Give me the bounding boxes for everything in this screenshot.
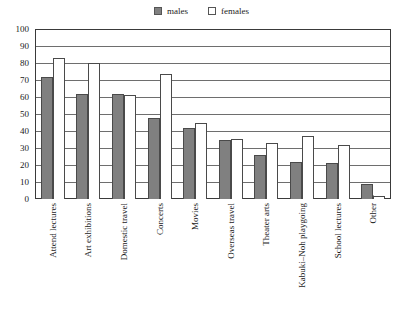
bar-group — [284, 29, 320, 199]
x-label-cell: School lectures — [320, 201, 356, 313]
bar-males — [183, 128, 195, 199]
bar-males — [219, 140, 231, 200]
y-tick-label: 80 — [20, 59, 29, 68]
x-axis-category-label: Concerts — [155, 203, 164, 235]
legend-label-females: females — [221, 7, 249, 16]
x-axis-category-label: Theater arts — [262, 203, 271, 246]
bar-group — [249, 29, 285, 199]
x-axis-category-label: Movies — [191, 203, 200, 230]
x-axis-category-label: School lectures — [333, 203, 342, 258]
bar-chart: males females 0102030405060708090100 Att… — [0, 0, 403, 315]
bars-layer — [35, 29, 391, 199]
x-tick-mark — [337, 195, 338, 199]
bar-females — [373, 196, 385, 199]
x-axis-category-label: Kabuki–Noh playgoing — [297, 203, 306, 288]
y-axis: 0102030405060708090100 — [0, 29, 33, 199]
bar-group — [177, 29, 213, 199]
bar-group — [71, 29, 107, 199]
bar-group — [355, 29, 391, 199]
y-tick-label: 60 — [20, 93, 29, 102]
legend-swatch-females-icon — [208, 7, 216, 15]
bar-females — [124, 95, 136, 199]
x-axis-category-label: Other — [369, 203, 378, 224]
x-label-cell: Attend lectures — [35, 201, 71, 313]
bar-females — [53, 58, 65, 199]
chart-legend: males females — [0, 3, 403, 19]
bar-group — [106, 29, 142, 199]
x-label-cell: Movies — [177, 201, 213, 313]
bar-males — [148, 118, 160, 199]
x-tick-mark — [301, 195, 302, 199]
x-label-cell: Overseas travel — [213, 201, 249, 313]
bar-males — [254, 155, 266, 199]
y-tick-label: 100 — [16, 25, 30, 34]
bar-females — [266, 143, 278, 199]
x-label-cell: Theater arts — [249, 201, 285, 313]
x-axis-category-label: Art exhibitions — [84, 203, 93, 257]
legend-entry-females: females — [208, 7, 249, 16]
bar-females — [338, 145, 350, 199]
x-axis-category-label: Overseas travel — [226, 203, 235, 259]
bar-males — [290, 162, 302, 199]
bar-group — [142, 29, 178, 199]
x-label-cell: Kabuki–Noh playgoing — [284, 201, 320, 313]
y-tick-label: 30 — [20, 144, 29, 153]
x-tick-mark — [230, 195, 231, 199]
x-tick-mark — [195, 195, 196, 199]
x-tick-mark — [123, 195, 124, 199]
x-label-cell: Other — [355, 201, 391, 313]
bar-females — [302, 136, 314, 199]
x-axis-labels: Attend lecturesArt exhibitionsDomestic t… — [35, 201, 391, 313]
bar-males — [326, 163, 338, 199]
x-label-cell: Art exhibitions — [71, 201, 107, 313]
bar-females — [195, 123, 207, 200]
y-tick-label: 10 — [20, 178, 29, 187]
y-tick-label: 90 — [20, 42, 29, 51]
x-tick-mark — [373, 195, 374, 199]
x-label-cell: Domestic travel — [106, 201, 142, 313]
bar-group — [320, 29, 356, 199]
legend-swatch-males-icon — [154, 7, 162, 15]
x-label-cell: Concerts — [142, 201, 178, 313]
x-tick-mark — [88, 195, 89, 199]
bar-females — [88, 63, 100, 199]
x-axis-category-label: Attend lectures — [48, 203, 57, 258]
bar-group — [35, 29, 71, 199]
y-tick-label: 50 — [20, 110, 29, 119]
y-tick-label: 40 — [20, 127, 29, 136]
bar-males — [76, 94, 88, 199]
legend-label-males: males — [167, 7, 188, 16]
bar-group — [213, 29, 249, 199]
bar-males — [361, 184, 373, 199]
bar-males — [112, 94, 124, 199]
y-tick-label: 0 — [25, 195, 30, 204]
x-tick-mark — [159, 195, 160, 199]
bar-females — [160, 74, 172, 199]
x-axis-category-label: Domestic travel — [119, 203, 128, 260]
legend-entry-males: males — [154, 7, 188, 16]
x-tick-mark — [52, 195, 53, 199]
bar-females — [231, 139, 243, 199]
y-tick-label: 20 — [20, 161, 29, 170]
y-tick-label: 70 — [20, 76, 29, 85]
x-tick-mark — [266, 195, 267, 199]
bar-males — [41, 77, 53, 199]
